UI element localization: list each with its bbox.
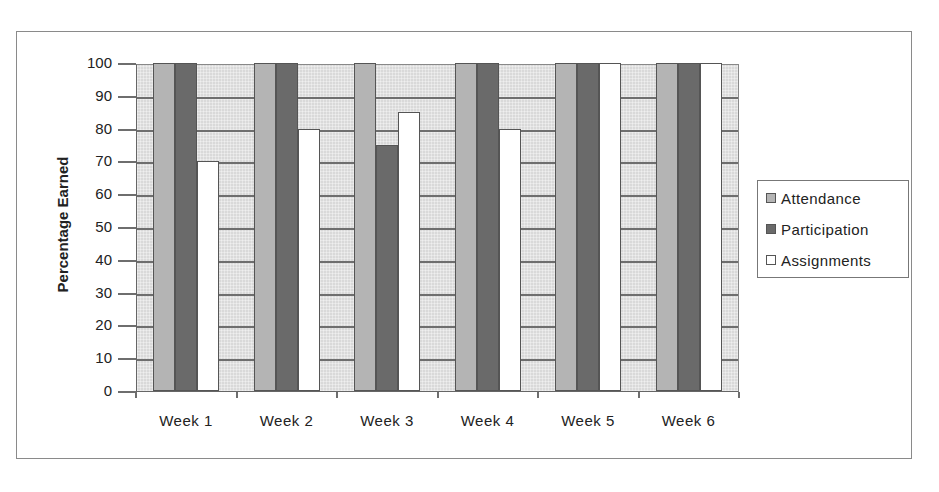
bar-assignments-week-4 — [499, 129, 521, 391]
legend: Attendance Participation Assignments — [757, 180, 909, 278]
x-tick-label: Week 6 — [639, 412, 739, 429]
x-tick — [437, 392, 439, 398]
bar-participation-week-3 — [376, 145, 398, 391]
x-tick-label: Week 5 — [538, 412, 638, 429]
x-tick — [738, 392, 740, 398]
bar-participation-week-1 — [175, 63, 197, 391]
x-tick-label: Week 4 — [438, 412, 538, 429]
y-tick-label: 30 — [72, 284, 112, 301]
x-tick — [236, 392, 238, 398]
bar-participation-week-2 — [276, 63, 298, 391]
gridline — [137, 326, 738, 328]
bar-attendance-week-6 — [656, 63, 678, 391]
y-tick — [118, 391, 136, 393]
y-tick-label: 90 — [72, 87, 112, 104]
bar-assignments-week-3 — [398, 112, 420, 391]
y-tick — [118, 358, 136, 360]
y-tick — [118, 96, 136, 98]
legend-item-attendance: Attendance — [766, 187, 861, 209]
x-tick-label: Week 1 — [136, 412, 236, 429]
y-tick — [118, 161, 136, 163]
y-tick-label: 60 — [72, 185, 112, 202]
bar-attendance-week-5 — [555, 63, 577, 391]
x-tick — [537, 392, 539, 398]
bar-participation-week-5 — [577, 63, 599, 391]
y-tick — [118, 260, 136, 262]
gridline — [137, 228, 738, 230]
legend-item-assignments: Assignments — [766, 249, 871, 271]
bar-participation-week-4 — [477, 63, 499, 391]
y-tick — [118, 293, 136, 295]
y-tick — [118, 227, 136, 229]
y-tick-label: 20 — [72, 316, 112, 333]
gridline — [137, 359, 738, 361]
legend-item-participation: Participation — [766, 218, 869, 240]
bar-assignments-week-5 — [599, 63, 621, 391]
y-axis-title: Percentage Earned — [54, 145, 71, 305]
legend-swatch-assignments-icon — [766, 255, 776, 265]
y-tick-label: 0 — [72, 382, 112, 399]
y-tick-label: 10 — [72, 349, 112, 366]
x-tick-label: Week 2 — [237, 412, 337, 429]
y-tick — [118, 194, 136, 196]
y-tick-label: 100 — [72, 54, 112, 71]
gridline — [137, 130, 738, 132]
gridline — [137, 195, 738, 197]
y-tick — [118, 63, 136, 65]
bar-attendance-week-4 — [455, 63, 477, 391]
legend-label: Attendance — [781, 190, 861, 207]
bar-attendance-week-1 — [153, 63, 175, 391]
x-tick-label: Week 3 — [337, 412, 437, 429]
bar-attendance-week-2 — [254, 63, 276, 391]
y-tick — [118, 325, 136, 327]
gridline — [137, 294, 738, 296]
bar-participation-week-6 — [678, 63, 700, 391]
plot-area — [136, 64, 739, 392]
bar-assignments-week-1 — [197, 161, 219, 391]
y-tick — [118, 129, 136, 131]
legend-swatch-participation-icon — [766, 224, 776, 234]
y-tick-label: 40 — [72, 251, 112, 268]
legend-label: Participation — [781, 221, 869, 238]
bar-assignments-week-6 — [700, 63, 722, 391]
legend-label: Assignments — [781, 252, 871, 269]
gridline — [137, 261, 738, 263]
y-tick-label: 50 — [72, 218, 112, 235]
y-tick-label: 80 — [72, 120, 112, 137]
gridline — [137, 97, 738, 99]
bar-attendance-week-3 — [354, 63, 376, 391]
x-tick — [638, 392, 640, 398]
y-tick-label: 70 — [72, 152, 112, 169]
x-tick — [135, 392, 137, 398]
x-tick — [336, 392, 338, 398]
bar-assignments-week-2 — [298, 129, 320, 391]
gridline — [137, 162, 738, 164]
legend-swatch-attendance-icon — [766, 193, 776, 203]
